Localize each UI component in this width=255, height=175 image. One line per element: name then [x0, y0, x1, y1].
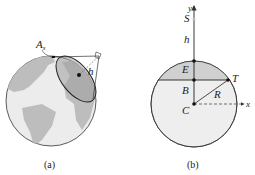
point-S	[193, 18, 196, 21]
figure-b: y S h E B T R C x (b)	[150, 3, 250, 171]
station-marker	[52, 56, 55, 58]
label-height-a: h	[88, 65, 94, 77]
point-E	[192, 59, 196, 63]
figure-a: As h (a)	[6, 38, 104, 171]
label-E: E	[181, 63, 189, 75]
label-R: R	[213, 88, 221, 100]
label-B: B	[182, 84, 189, 96]
ground-point	[77, 73, 81, 77]
label-x: x	[245, 99, 250, 109]
label-station: As	[35, 38, 46, 52]
caption-b: (b)	[187, 159, 199, 171]
tangent-line-top	[51, 56, 99, 57]
label-T: T	[232, 72, 239, 84]
point-C	[192, 102, 196, 106]
label-S: S	[184, 12, 190, 24]
label-h: h	[184, 33, 190, 45]
point-B	[192, 78, 196, 82]
diagram-canvas: As h (a) y S h E B T R C x (b)	[0, 0, 255, 175]
satellite-icon	[95, 52, 101, 59]
visible-cap	[150, 60, 240, 80]
label-C: C	[182, 104, 190, 116]
caption-a: (a)	[44, 159, 55, 171]
point-T	[226, 78, 230, 82]
